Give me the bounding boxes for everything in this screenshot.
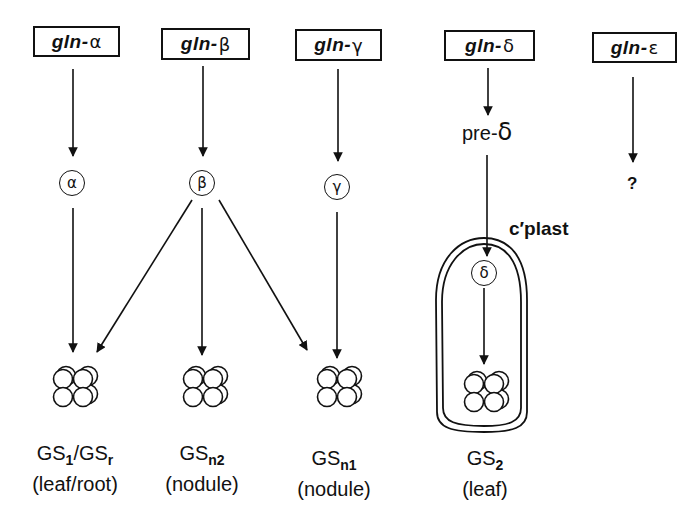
isoenzyme-tissue: (nodule) — [284, 477, 384, 501]
arrow-beta-to-gs1 — [97, 200, 192, 352]
chloroplast-label: c′plast — [509, 218, 568, 240]
isoenzyme-tissue: (nodule) — [152, 472, 252, 496]
polypeptide-gamma: γ — [324, 174, 350, 200]
gene-greek-letter: β — [219, 34, 231, 55]
gene-box-gln-alpha: gln-α — [33, 26, 120, 57]
gene-prefix: gln- — [181, 33, 218, 55]
gene-greek-letter: δ — [503, 35, 514, 56]
gene-greek-letter: γ — [352, 35, 363, 56]
gene-prefix: gln- — [314, 34, 351, 56]
precursor-pre-delta: pre-δ — [462, 118, 512, 146]
isoenzyme-label-gsn2: GSn2 (nodule) — [152, 441, 252, 496]
gene-greek-letter: α — [89, 31, 101, 52]
gene-prefix: gln- — [611, 37, 648, 59]
isoenzyme-name: GS — [179, 442, 208, 464]
polypeptide-beta: β — [189, 170, 215, 196]
precursor-prefix: pre- — [462, 122, 498, 144]
isoenzyme-label-gs1-gsr: GS1/GSr (leaf/root) — [10, 441, 140, 496]
gene-box-gln-beta: gln-β — [161, 28, 250, 60]
polypeptide-delta: δ — [471, 260, 497, 286]
diagram-graphics — [0, 0, 695, 513]
gene-box-gln-delta: gln-δ — [444, 30, 535, 61]
precursor-greek: δ — [498, 118, 513, 146]
isoenzyme-name: GS — [37, 442, 66, 464]
isoenzyme-tissue: (leaf/root) — [10, 472, 140, 496]
isoenzyme-subscript: r — [108, 452, 113, 468]
isoenzyme-subscript: n1 — [340, 457, 356, 473]
gene-greek-letter: ε — [649, 37, 659, 58]
arrow-beta-to-gsn1 — [219, 200, 307, 350]
isoenzyme-subscript: n2 — [208, 452, 224, 468]
enzyme-gsn1-icon — [318, 367, 362, 407]
unknown-product: ? — [627, 174, 637, 194]
enzyme-gs1-gsr-icon — [54, 367, 98, 407]
polypeptide-alpha: α — [59, 170, 85, 196]
isoenzyme-subscript: 2 — [496, 457, 504, 473]
isoenzyme-name: GS — [311, 447, 340, 469]
isoenzyme-name: /GS — [73, 442, 107, 464]
isoenzyme-tissue: (leaf) — [440, 477, 530, 501]
gene-prefix: gln- — [465, 35, 502, 57]
isoenzyme-name: GS — [467, 447, 496, 469]
isoenzyme-label-gsn1: GSn1 (nodule) — [284, 446, 384, 501]
gene-prefix: gln- — [52, 31, 89, 53]
isoenzyme-label-gs2: GS2 (leaf) — [440, 446, 530, 501]
enzyme-gsn2-icon — [184, 367, 228, 407]
gene-box-gln-epsilon: gln-ε — [592, 32, 677, 63]
enzyme-gs2-icon — [465, 372, 509, 412]
gene-box-gln-gamma: gln-γ — [295, 29, 382, 61]
